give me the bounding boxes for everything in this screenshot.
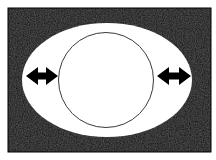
figure-container bbox=[0, 0, 216, 160]
figure-canvas bbox=[0, 0, 216, 160]
inscribed-circle bbox=[59, 33, 154, 128]
